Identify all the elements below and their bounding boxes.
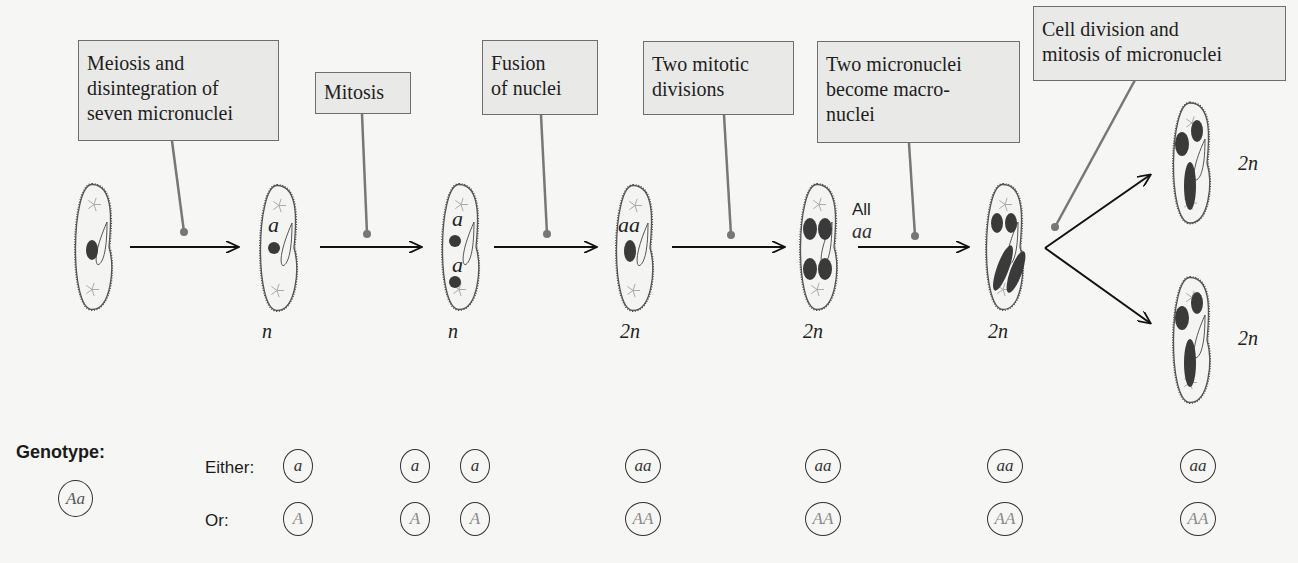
paramecium-cell — [442, 185, 478, 310]
step-label-text: Two micronucleibecome macro-nuclei — [826, 53, 962, 125]
process-arrow — [1045, 248, 1150, 323]
nucleus — [803, 218, 817, 240]
nucleus-genotype-label: a — [452, 252, 463, 278]
nucleus — [1191, 120, 1203, 142]
step-label-cell-division: Cell division andmitosis of micronuclei — [1033, 6, 1286, 81]
paramecium-cell — [75, 185, 111, 310]
nucleus — [818, 258, 832, 280]
genotype-circle-or: AA — [1180, 502, 1216, 536]
ploidy-label: n — [448, 320, 458, 343]
ploidy-label: 2n — [803, 320, 823, 343]
genotype-initial-text: Aa — [66, 489, 85, 509]
paramecium-cell — [1173, 103, 1209, 223]
nucleus — [449, 235, 461, 247]
step-label-text: Fusionof nuclei — [491, 52, 562, 99]
genotype-initial: Aa — [58, 480, 93, 517]
nucleus — [624, 240, 636, 262]
pointer-line — [362, 114, 367, 234]
nucleus-genotype-label: a — [452, 206, 463, 232]
genotype-circle-either: aa — [1180, 449, 1216, 483]
cell-membrane — [986, 185, 1022, 310]
ploidy-label: 2n — [620, 320, 640, 343]
all-annotation: All — [852, 200, 871, 220]
cell-membrane — [442, 185, 478, 310]
genotype-circle-or: A — [460, 502, 490, 536]
step-label-text: Mitosis — [324, 81, 384, 103]
nucleus — [1184, 162, 1196, 210]
genotype-circle-or: A — [400, 502, 430, 536]
pointer-dot — [363, 230, 371, 238]
genotype-circle-either: a — [400, 449, 430, 483]
pointer-dot — [727, 231, 735, 239]
step-label-text: Meiosis anddisintegration ofseven micron… — [87, 52, 233, 124]
paramecium-cell — [986, 185, 1029, 310]
pointer-line — [909, 143, 915, 236]
genotype-title: Genotype: — [16, 442, 105, 463]
or-label: Or: — [205, 511, 229, 531]
nucleus-genotype-label: a — [268, 212, 279, 238]
nucleus — [991, 213, 1003, 233]
pointer-dot — [180, 228, 188, 236]
genotype-circle-either: aa — [987, 449, 1023, 483]
ploidy-label: 2n — [1238, 152, 1258, 175]
cells — [75, 103, 1209, 403]
nucleus — [803, 258, 817, 280]
cell-membrane — [800, 185, 836, 310]
paramecium-cell — [1173, 278, 1209, 403]
pointer-line — [172, 141, 184, 232]
step-label-two-mitotic-divisions: Two mitoticdivisions — [643, 41, 794, 115]
pointer-line — [1055, 80, 1135, 227]
step-label-macronuclei: Two micronucleibecome macro-nuclei — [817, 41, 1020, 143]
step-label-mitosis: Mitosis — [315, 72, 411, 114]
process-arrow — [1045, 175, 1150, 248]
genotype-circle-or: AA — [625, 502, 661, 536]
step-label-text: Two mitoticdivisions — [652, 53, 749, 100]
step-label-text: Cell division andmitosis of micronuclei — [1042, 18, 1222, 65]
genotype-circle-either: aa — [805, 449, 841, 483]
paramecium-cell — [616, 186, 652, 311]
nucleus — [1175, 132, 1189, 156]
ploidy-label: 2n — [988, 320, 1008, 343]
nucleus — [268, 242, 280, 254]
nucleus — [1175, 306, 1189, 330]
genotype-circle-either: a — [460, 449, 490, 483]
either-label: Either: — [205, 458, 254, 478]
genotype-circle-or: AA — [987, 502, 1023, 536]
pointer-dot — [911, 232, 919, 240]
ploidy-label: n — [262, 320, 272, 343]
pointer-line — [541, 115, 547, 234]
nucleus — [86, 240, 98, 260]
all-genotype-annotation: aa — [852, 220, 872, 243]
pointer-dot — [1051, 223, 1059, 231]
step-label-meiosis: Meiosis anddisintegration ofseven micron… — [78, 40, 279, 141]
genotype-circle-or: AA — [805, 502, 841, 536]
pointer-line — [724, 115, 731, 235]
nucleus — [1191, 292, 1203, 314]
step-label-fusion: Fusionof nuclei — [482, 40, 598, 115]
nucleus — [818, 218, 832, 240]
genotype-circle-or: A — [283, 502, 313, 536]
paramecium-cell — [800, 185, 836, 310]
nucleus — [1005, 213, 1017, 233]
paramecium-cell — [260, 186, 296, 311]
ploidy-label: 2n — [1238, 327, 1258, 350]
nucleus — [1184, 339, 1196, 387]
pointer-dot — [543, 230, 551, 238]
genotype-circle-either: a — [283, 449, 313, 483]
nucleus-genotype-label: aa — [618, 212, 640, 238]
genotype-circle-either: aa — [625, 449, 661, 483]
